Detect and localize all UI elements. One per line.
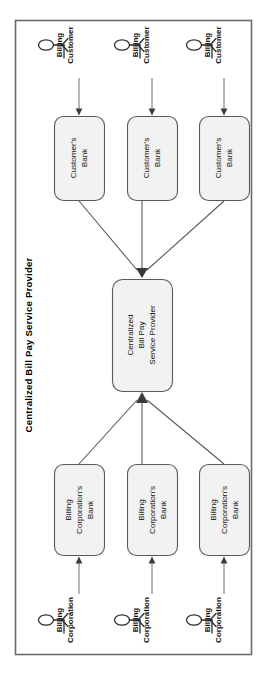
actor-label-line2: Corporation [66, 597, 75, 643]
node-label-line1: Customer's [142, 138, 151, 179]
actor-label-line1: Billing [203, 33, 212, 58]
node-label-line1: Customer's [69, 138, 78, 179]
node-customers-bank-3: Customer's Bank [200, 117, 250, 201]
node-label-line3: Bank [231, 500, 240, 519]
actor-label-line2: Customer [142, 26, 151, 63]
hub-label-line1: Centralized [126, 315, 135, 356]
node-billing-corporations-bank-2: Billing Corporation's Bank [128, 465, 178, 556]
hub-label-line3: Service Provider [148, 305, 157, 365]
node-label-line2: Corporation's [75, 486, 84, 534]
node-label-line1: Billing [209, 499, 218, 521]
centralized-bill-pay-diagram: Centralized Bill Pay Service Provider Bi… [0, 0, 270, 674]
actor-label-line1: Billing [55, 33, 64, 58]
node-label-line1: Billing [64, 499, 73, 521]
node-label-line1: Billing [137, 499, 146, 521]
node-billing-corporations-bank-3: Billing Corporation's Bank [200, 465, 250, 556]
node-customers-bank-1: Customer's Bank [55, 117, 105, 201]
hub-label-line2: Bill Pay [137, 321, 146, 349]
node-label-line1: Customer's [214, 138, 223, 179]
actor-head-icon [187, 615, 202, 625]
node-label-line3: Bank [86, 500, 95, 519]
actor-head-icon [187, 40, 202, 50]
node-label-line3: Bank [159, 500, 168, 519]
actor-head-icon [115, 40, 130, 50]
diagram-canvas: Centralized Bill Pay Service Provider Bi… [0, 0, 270, 674]
node-customers-bank-2: Customer's Bank [128, 117, 178, 201]
actor-label-line2: Customer [214, 26, 223, 63]
node-billing-corporations-bank-1: Billing Corporation's Bank [55, 465, 105, 556]
page-title: Centralized Bill Pay Service Provider [23, 258, 34, 433]
actor-label-line2: Customer [66, 26, 75, 63]
actor-label-line1: Billing [203, 608, 212, 633]
actor-label-line1: Billing [131, 33, 140, 58]
actor-head-icon [39, 615, 54, 625]
node-label-line2: Corporation's [220, 486, 229, 534]
actor-head-icon [39, 40, 54, 50]
actor-label-line2: Corporation [214, 597, 223, 643]
node-label-line2: Corporation's [148, 486, 157, 534]
actor-head-icon [115, 615, 130, 625]
node-centralized-bill-pay-service-provider: Centralized Bill Pay Service Provider [113, 280, 173, 392]
actor-label-line1: Billing [131, 608, 140, 633]
actor-label-line1: Billing [55, 608, 64, 633]
node-label-line2: Bank [225, 148, 234, 167]
node-label-line2: Bank [153, 148, 162, 167]
node-label-line2: Bank [80, 148, 89, 167]
actor-label-line2: Corporation [142, 597, 151, 643]
